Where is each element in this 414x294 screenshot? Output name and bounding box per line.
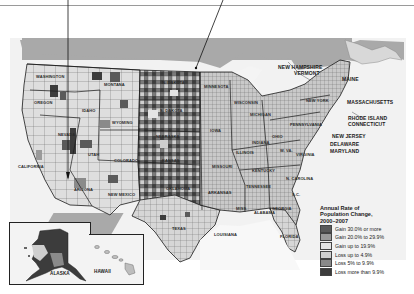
legend-swatch <box>320 233 332 241</box>
label-missouri: MISSOURI <box>212 164 233 170</box>
label-michigan: MICHIGAN <box>250 112 271 118</box>
label-kentucky: KENTUCKY <box>252 168 275 174</box>
label-georgia: GEORGIA <box>272 206 292 212</box>
legend-item: Loss more than 9.9% <box>320 268 412 276</box>
label-vermont: VERMONT <box>294 70 320 76</box>
label-south-dakota: S. DAKOTA <box>160 108 183 114</box>
legend-label: Loss more than 9.9% <box>335 269 384 275</box>
label-montana: MONTANA <box>104 82 125 88</box>
label-virginia: VIRGINIA <box>296 152 315 158</box>
label-north-carolina: N. CAROLINA <box>286 176 313 182</box>
legend-label: Loss up to 4.9% <box>335 252 372 258</box>
legend-item: Gain 20.0% to 29.9% <box>320 233 412 241</box>
label-idaho: IDAHO <box>82 108 95 114</box>
label-tennessee: TENNESSEE <box>246 184 271 190</box>
label-wisconsin: WISCONSIN <box>234 100 258 106</box>
label-texas: TEXAS <box>172 226 186 232</box>
label-pennsylvania: PENNSYLVANIA <box>290 122 322 128</box>
label-arkansas: ARKANSAS <box>208 190 231 196</box>
legend-label: Loss 5% to 9.9% <box>335 260 374 266</box>
label-illinois: ILLINOIS <box>236 150 254 156</box>
legend-label: Gain 20.0% to 29.9% <box>335 234 384 240</box>
label-louisiana: LOUISIANA <box>214 232 237 238</box>
hawaii-inset: HAWAII <box>89 234 144 285</box>
label-kansas: KANSAS <box>162 158 180 164</box>
label-washington: WASHINGTON <box>36 74 64 80</box>
label-colorado: COLORADO <box>114 158 138 164</box>
label-iowa: IOWA <box>210 128 221 134</box>
map-legend: Annual Rate of Population Change, 2000–2… <box>320 205 412 276</box>
legend-swatch <box>320 225 332 233</box>
alaska-inset: ALASKA <box>9 222 91 285</box>
label-ohio: OHIO <box>272 134 283 140</box>
legend-title-line3: 2000–2007 <box>320 218 412 224</box>
legend-label: Gain 30.0% or more <box>335 226 381 232</box>
label-south-carolina: S.C. <box>292 192 300 198</box>
legend-item: Loss up to 4.9% <box>320 251 412 259</box>
label-hawaii: HAWAII <box>94 269 111 275</box>
label-nebraska: NEBRASKA <box>156 134 179 140</box>
legend-label: Gain up to 19.9% <box>335 243 375 249</box>
legend-swatch <box>320 268 332 276</box>
label-delaware: DELAWARE <box>330 141 359 147</box>
label-indiana: INDIANA <box>252 140 269 146</box>
legend-item: Gain 30.0% or more <box>320 225 412 233</box>
label-arizona: ARIZONA <box>74 187 93 193</box>
label-mississippi: MISS. <box>236 206 247 212</box>
legend-swatch <box>320 251 332 259</box>
label-connecticut: CONNECTICUT <box>348 121 386 127</box>
label-oklahoma: OKLAHOMA <box>166 186 190 192</box>
label-north-dakota: N. DAKOTA <box>162 80 185 86</box>
label-maryland: MARYLAND <box>330 148 359 154</box>
label-minnesota: MINNESOTA <box>204 84 229 90</box>
label-maine: MAINE <box>342 76 359 82</box>
label-new-mexico: NEW MEXICO <box>108 192 135 198</box>
label-wyoming: WYOMING <box>112 120 133 126</box>
legend-swatch <box>320 259 332 267</box>
label-nevada: NEVADA <box>58 132 75 138</box>
label-new-york: NEW YORK <box>306 98 329 104</box>
hawaii-shape <box>89 235 143 284</box>
label-massachusetts: MASSACHUSETTS <box>347 99 393 105</box>
legend-swatch <box>320 242 332 250</box>
label-new-jersey: NEW JERSEY <box>332 133 366 139</box>
label-california: CALIFORNIA <box>18 164 44 170</box>
label-west-virginia: W. VA. <box>280 148 293 154</box>
label-utah: UTAH <box>88 152 99 158</box>
legend-item: Gain up to 19.9% <box>320 242 412 250</box>
label-alaska: ALASKA <box>50 271 70 277</box>
label-florida: FLORIDA <box>280 234 298 240</box>
legend-item: Loss 5% to 9.9% <box>320 259 412 267</box>
label-oregon: OREGON <box>34 100 52 106</box>
